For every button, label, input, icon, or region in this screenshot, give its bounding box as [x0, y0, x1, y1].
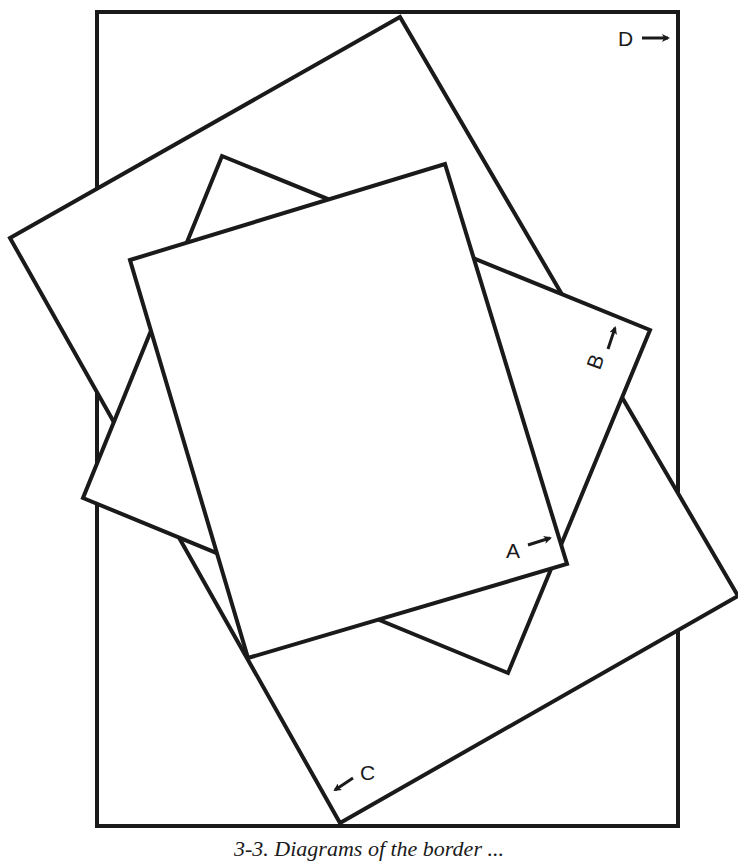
figure-caption: 3-3. Diagrams of the border ...: [0, 836, 738, 862]
label-c: C: [360, 762, 375, 783]
label-d: D: [618, 28, 633, 49]
label-a: A: [506, 540, 520, 561]
